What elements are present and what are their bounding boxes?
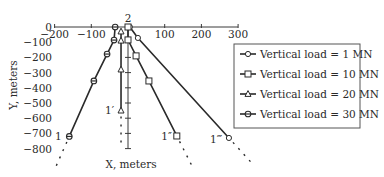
open-square-marker-icon [125,24,131,30]
point-label: 1 [55,130,62,142]
point-label: 1″ [161,130,172,142]
y-axis-title: Y, meters [7,60,19,110]
legend-item: Vertical load = 1 MN [240,48,372,60]
open-square-marker-icon [146,78,152,84]
series-4 [56,24,118,167]
y-tick-label: −600 [23,112,52,124]
crossed-circle-marker-icon [66,134,72,140]
y-tick-label: −100 [23,36,52,48]
y-tick-label: 0 [45,21,52,33]
legend-label: Vertical load = 1 MN [259,48,372,60]
series [56,24,252,168]
series-2 [125,24,192,166]
open-triangle-marker-icon [118,107,124,113]
legend-item: Vertical load = 30 MN [240,108,379,120]
axes [55,24,239,149]
series-extension [56,142,67,168]
legend: Vertical load = 1 MNVertical load = 10 M… [234,44,379,128]
y-tick-label: −700 [23,127,52,139]
chart: −200−1001002003000−100−200−300−400−500−6… [0,0,384,177]
legend-item: Vertical load = 20 MN [240,88,379,100]
legend-label: Vertical load = 30 MN [259,108,379,120]
open-square-marker-icon [133,53,139,59]
point-label: 2 [125,12,132,24]
open-square-marker-icon [125,37,131,43]
y-tick-label: −200 [23,51,52,63]
open-circle-marker-icon [135,35,140,40]
open-square-marker-icon [174,133,180,139]
series-extension [180,141,193,166]
x-tick-label: 200 [191,28,211,40]
open-circle-marker-icon [226,135,231,140]
crossed-circle-marker-icon [111,37,117,43]
y-tick-label: −300 [23,67,52,79]
x-tick-label: 100 [155,28,175,40]
y-tick-label: −400 [23,82,52,94]
x-tick-label: 300 [228,28,248,40]
legend-crossed-circle-icon [245,111,251,117]
x-axis-title: X, meters [105,158,156,170]
series-line [130,27,229,138]
legend-label: Vertical load = 20 MN [259,88,379,100]
series-extension [233,142,252,163]
series-1 [127,24,252,163]
y-tick-label: −500 [23,97,52,109]
legend-item: Vertical load = 10 MN [240,68,379,80]
series-3 [118,28,124,144]
open-triangle-marker-icon [118,28,124,34]
crossed-circle-marker-icon [91,78,97,84]
point-label: 1‴ [210,133,223,145]
legend-open-circle-icon [245,51,250,56]
legend-open-square-icon [245,71,251,77]
crossed-circle-marker-icon [112,24,118,30]
point-label: 1′ [105,104,115,116]
x-tick-label: −100 [77,28,106,40]
open-triangle-marker-icon [118,66,124,72]
crossed-circle-marker-icon [104,51,110,57]
legend-label: Vertical load = 10 MN [259,68,379,80]
y-tick-label: −800 [23,143,52,155]
open-triangle-marker-icon [118,37,124,43]
